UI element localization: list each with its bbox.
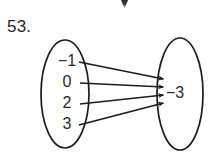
arrow-3-to-neg3 — [79, 103, 164, 125]
mapping-diagram — [0, 0, 210, 162]
worksheet-page: 53. −1 0 2 3 −3 — [0, 0, 210, 162]
arrow-2-to-neg3 — [80, 95, 164, 104]
domain-element-1: 0 — [52, 73, 82, 91]
arrow-0-to-neg3 — [80, 83, 164, 87]
range-element-0: −3 — [166, 84, 200, 102]
arrow-neg1-to-neg3 — [79, 62, 164, 79]
domain-element-2: 2 — [52, 94, 82, 112]
domain-element-3: 3 — [52, 115, 82, 133]
domain-element-0: −1 — [52, 52, 82, 70]
